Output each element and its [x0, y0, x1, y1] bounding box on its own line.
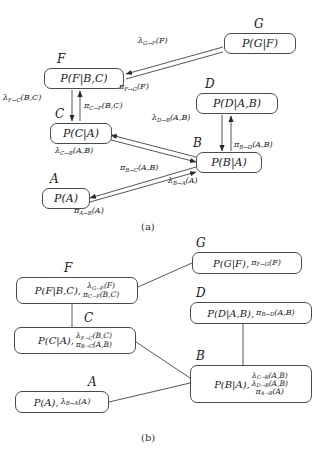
node-b-D-messages: πB→D(A,B)	[256, 309, 295, 318]
node-b-C[interactable]: P(C|A), λF→C(B,C) πB→C(A,B)	[14, 327, 136, 354]
msg-pi-F-to-G: πF→G(F)	[119, 82, 149, 91]
edge-b-a-b	[109, 383, 190, 402]
msg-arg: (A,B)	[170, 113, 190, 122]
msg-arg: (A,B)	[138, 163, 158, 172]
edge-d-b	[222, 115, 231, 151]
msg-sub: F→C	[81, 335, 93, 341]
msg-sub: B→C	[81, 343, 93, 349]
node-b-B-letter: B	[196, 349, 205, 363]
msg-arg: (A,B)	[93, 340, 112, 349]
node-b-D[interactable]: P(D|A,B), πB→D(A,B)	[190, 302, 312, 324]
msg-sub: A→B	[79, 210, 91, 216]
node-b-C-letter: C	[84, 311, 93, 325]
msg-sub: B→A	[173, 180, 185, 186]
msg-arg: (B,C)	[102, 101, 123, 110]
node-b-A-messages: λB→A(A)	[61, 398, 91, 407]
node-a-D-letter: D	[205, 77, 215, 91]
msg-sub: G→F	[143, 40, 156, 46]
msg-arg: (A,B)	[73, 146, 93, 155]
node-b-C-messages: λF→C(B,C) πB→C(A,B)	[76, 332, 112, 348]
edge-f-c	[72, 90, 80, 121]
msg-sub: D→B	[257, 382, 269, 388]
msg-sub: C→F	[88, 293, 100, 299]
node-a-C[interactable]: P(C|A)	[50, 123, 112, 144]
node-a-F[interactable]: P(F|B,C)	[44, 68, 124, 89]
node-b-B-messages: λC→B(A,B) λD→B(A,B) πA→B(A)	[252, 372, 288, 396]
msg-arg: (F)	[269, 258, 281, 267]
node-a-A-content: P(A)	[54, 192, 78, 205]
msg-pi-A-to-B: πA→B(A)	[74, 206, 104, 215]
node-a-F-content: P(F|B,C)	[60, 72, 107, 85]
msg-arg: (F)	[137, 82, 149, 91]
msg-arg: (F)	[156, 36, 168, 45]
node-b-A[interactable]: P(A), λB→A(A)	[15, 391, 109, 413]
node-b-C-main: P(C|A),	[38, 335, 74, 346]
node-a-B-letter: B	[193, 136, 202, 150]
node-a-B[interactable]: P(B|A)	[196, 152, 262, 173]
msg-sub: B→C	[125, 167, 138, 173]
node-a-G[interactable]: P(G|F)	[224, 33, 296, 54]
msg-sub: A→B	[261, 390, 273, 396]
node-b-F[interactable]: P(F|B,C), λG→F(F) πC→F(B,C)	[16, 277, 138, 304]
edge-g-f	[126, 47, 223, 79]
msg-sub: D→B	[157, 117, 170, 123]
node-a-G-letter: G	[254, 17, 264, 31]
node-b-B[interactable]: P(B|A), λC→B(A,B) λD→B(A,B) πA→B(A)	[190, 365, 312, 403]
msg-sub: C→F	[89, 105, 102, 111]
msg-sub: B→A	[66, 400, 78, 406]
figure-page: P(G|F) G P(F|B,C) F P(D|A,B) D P(C|A) C …	[0, 0, 332, 458]
caption-b: (b)	[141, 432, 155, 443]
node-b-A-letter: A	[88, 375, 97, 389]
msg-sub: G→F	[92, 285, 104, 291]
msg-sub: B→D	[261, 311, 274, 317]
msg-arg: (B,C)	[21, 93, 42, 102]
msg-sub: F→G	[256, 261, 269, 267]
msg-arg: (A,B)	[252, 140, 272, 149]
msg-arg: (A)	[92, 206, 104, 215]
msg-arg: (A)	[186, 176, 198, 185]
node-b-G-letter: G	[196, 236, 206, 250]
node-b-G-main: P(G|F),	[213, 258, 249, 269]
msg-base: λ	[61, 397, 66, 406]
msg-arg: (A,B)	[274, 308, 294, 317]
msg-sub: B→D	[239, 144, 252, 150]
msg-sub: F→G	[124, 86, 137, 92]
edge-c-b	[111, 135, 196, 162]
node-a-C-content: P(C|A)	[63, 127, 99, 140]
msg-lambda-D-to-B: λD→B(A,B)	[152, 113, 190, 122]
msg-sub: F→C	[8, 97, 21, 103]
node-b-B-main: P(B|A),	[214, 379, 250, 390]
node-b-D-letter: D	[196, 286, 206, 300]
node-a-F-letter: F	[57, 52, 65, 66]
node-b-F-main: P(F|B,C),	[35, 285, 81, 296]
msg-arg: (A)	[273, 387, 284, 396]
node-b-F-messages: λG→F(F) πC→F(B,C)	[83, 282, 119, 298]
node-b-G-messages: πF→G(F)	[251, 259, 281, 268]
node-a-C-letter: C	[55, 107, 64, 121]
node-a-B-content: P(B|A)	[211, 156, 247, 169]
msg-lambda-F-to-C: λF→C(B,C)	[3, 93, 41, 102]
msg-arg: (A)	[78, 397, 90, 406]
edge-b-c-b	[136, 342, 190, 378]
caption-a: (a)	[141, 221, 155, 232]
node-b-A-main: P(A),	[34, 397, 59, 408]
node-a-G-content: P(G|F)	[242, 37, 278, 50]
msg-pi-C-to-F: πC→F(B,C)	[84, 101, 123, 110]
msg-pi-B-to-D: πB→D(A,B)	[234, 140, 273, 149]
msg-pi-B-to-C: πB→C(A,B)	[120, 163, 158, 172]
msg-lambda-C-to-B: λC→B(A,B)	[55, 146, 93, 155]
node-a-D-content: P(D|A,B)	[213, 97, 261, 110]
msg-sub: C→B	[60, 150, 73, 156]
node-b-D-main: P(D|A,B),	[207, 308, 254, 319]
msg-sub: C→B	[257, 374, 269, 380]
msg-lambda-G-to-F: λG→F(F)	[138, 36, 168, 45]
msg-lambda-B-to-A: λB→A(A)	[168, 176, 198, 185]
node-a-A-letter: A	[50, 172, 59, 186]
edge-b-g-f	[138, 263, 192, 287]
node-a-D[interactable]: P(D|A,B)	[196, 93, 278, 114]
node-b-F-letter: F	[64, 261, 72, 275]
node-b-G[interactable]: P(G|F), πF→G(F)	[192, 252, 302, 274]
